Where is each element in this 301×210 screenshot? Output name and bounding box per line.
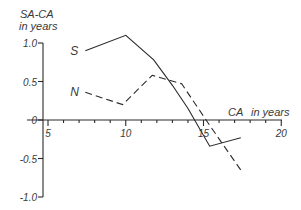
y-tick-label: 0 [31,115,37,126]
x-axis-unit: in years [251,106,290,118]
series-s-line [85,35,241,146]
y-axis-unit: in years [19,20,58,32]
x-tick-label: 10 [120,128,132,139]
series-s-label: S [70,44,78,58]
y-ticks: 1.00.50-0.5-1.0 [20,38,43,203]
y-tick-label: -0.5 [20,154,38,165]
line-chart: SA-CA in years 1.00.50-0.5-1.0 5101520 C… [0,0,301,210]
x-tick-label: 5 [45,128,51,139]
y-tick-label: -1.0 [20,192,38,203]
y-tick-label: 1.0 [23,38,37,49]
series-n-line [85,75,241,170]
x-axis-title: CA [228,106,243,118]
x-ticks: 5101520 [45,120,287,139]
y-tick-label: 0.5 [23,77,37,88]
y-axis-title: SA-CA [20,8,54,20]
x-tick-label: 20 [275,128,288,139]
series-n-label: N [70,85,79,99]
